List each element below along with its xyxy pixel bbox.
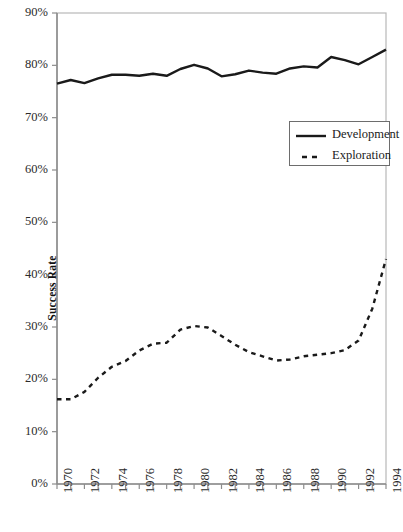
legend-item-development: Development	[290, 123, 389, 145]
x-tick-label: 1974	[117, 468, 130, 493]
y-tick-label: 0%	[4, 477, 48, 490]
x-tick-label: 1970	[62, 468, 75, 493]
x-tick-label: 1984	[254, 468, 267, 493]
figure-caption	[2, 523, 401, 532]
y-tick-label: 60%	[4, 163, 48, 176]
legend-swatch-solid-icon	[295, 128, 327, 140]
x-tick-label: 1980	[199, 468, 212, 493]
legend-swatch-dashed-icon	[295, 149, 327, 161]
x-tick-label: 1986	[281, 468, 294, 493]
line-chart-canvas	[0, 0, 403, 532]
legend-item-exploration: Exploration	[290, 144, 389, 166]
x-tick-label: 1982	[227, 468, 240, 493]
chart-figure: 90%80%70%60%50%40%30%20%10%0% 1970197219…	[0, 0, 403, 532]
plot-area-border	[57, 13, 386, 484]
y-tick-label: 30%	[4, 320, 48, 333]
y-tick-label: 70%	[4, 111, 48, 124]
y-tick-label: 20%	[4, 372, 48, 385]
series-line-development	[57, 50, 386, 84]
x-tick-label: 1994	[391, 468, 403, 493]
y-axis-title: Success Rate	[46, 228, 58, 348]
y-tick-label: 40%	[4, 268, 48, 281]
data-series-group	[57, 50, 386, 400]
legend-label-exploration: Exploration	[332, 148, 391, 163]
series-line-exploration	[57, 259, 386, 399]
x-tick-label: 1976	[144, 468, 157, 493]
x-tick-label: 1990	[336, 468, 349, 493]
x-tick-label: 1972	[89, 468, 102, 493]
y-tick-label: 10%	[4, 425, 48, 438]
y-tick-label: 50%	[4, 215, 48, 228]
x-tick-label: 1988	[309, 468, 322, 493]
plot-frame	[57, 13, 386, 484]
x-tick-label: 1992	[364, 468, 377, 493]
y-tick-label: 90%	[4, 6, 48, 19]
x-tick-label: 1978	[172, 468, 185, 493]
legend-label-development: Development	[332, 127, 399, 142]
y-tick-label: 80%	[4, 58, 48, 71]
chart-legend: Development Exploration	[289, 121, 390, 166]
